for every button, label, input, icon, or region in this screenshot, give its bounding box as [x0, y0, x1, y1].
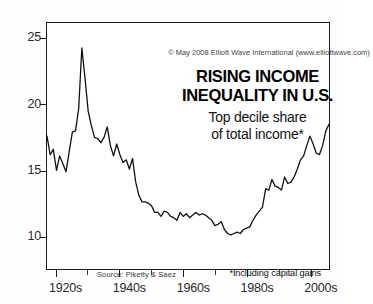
y-tick-label: 20 [27, 98, 41, 111]
plot-area: © May 2008 Elliott Wave International (w… [46, 22, 330, 270]
x-minor-tick-mark [87, 270, 88, 275]
x-tick-mark [247, 270, 248, 277]
y-tick-label: 25 [27, 31, 41, 44]
x-minor-tick-mark [215, 270, 216, 275]
x-tick-mark [56, 270, 57, 277]
y-tick-label: 10 [27, 230, 41, 243]
y-tick-label: 15 [27, 164, 41, 177]
chart-title-line-1: RISING INCOME [155, 67, 360, 86]
chart-subtitle-block: Top decile share of total income* [155, 109, 360, 143]
x-tick-label: 1980s [241, 282, 274, 295]
chart-subtitle-line-2: of total income* [155, 126, 360, 143]
chart-title-block: RISING INCOME INEQUALITY IN U.S. Top dec… [155, 67, 360, 143]
x-tick-mark [311, 270, 312, 277]
x-minor-tick-mark [151, 270, 152, 275]
chart-title-line-2: INEQUALITY IN U.S. [155, 86, 360, 105]
x-tick-label: 2000s [304, 282, 337, 295]
x-tick-mark [119, 270, 120, 277]
y-axis: 10152025 [0, 0, 41, 304]
x-tick-label: 1960s [177, 282, 210, 295]
x-minor-tick-mark [279, 270, 280, 275]
x-tick-label: 1940s [113, 282, 146, 295]
data-line-chart [47, 23, 329, 269]
copyright-notice: © May 2008 Elliott Wave International (w… [165, 49, 373, 57]
x-tick-label: 1920s [49, 282, 82, 295]
chart-subtitle-line-1: Top decile share [155, 109, 360, 126]
x-axis: 1920s1940s1960s1980s2000s [0, 274, 345, 304]
x-tick-mark [183, 270, 184, 277]
